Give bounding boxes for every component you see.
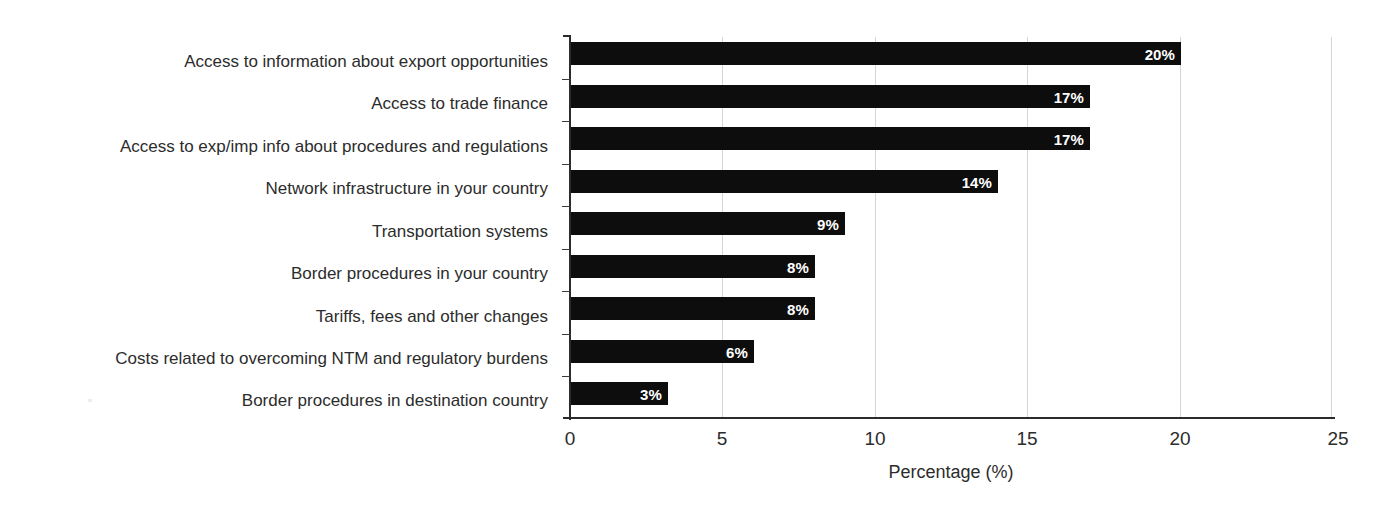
bar-row[interactable]: 17%: [570, 127, 1332, 150]
category-label: Transportation systems: [0, 223, 548, 240]
bar-value-label: 17%: [1054, 89, 1084, 104]
category-label: Access to information about export oppor…: [0, 53, 548, 70]
bar-value-label: 8%: [787, 301, 809, 316]
bar-chart-figure: 20% 17% 17% 14% 9% 8%: [0, 0, 1376, 511]
category-label: Border procedures in your country: [0, 265, 548, 282]
bar[interactable]: 14%: [570, 170, 998, 193]
bar-row[interactable]: 9%: [570, 212, 1332, 235]
bar[interactable]: 3%: [570, 382, 668, 405]
category-label: Tariffs, fees and other changes: [0, 308, 548, 325]
x-axis-title: Percentage (%): [570, 463, 1332, 481]
bar-row[interactable]: 6%: [570, 340, 1332, 363]
plot-area: 20% 17% 17% 14% 9% 8%: [570, 37, 1332, 418]
bar-row[interactable]: 17%: [570, 85, 1332, 108]
y-axis-line: [569, 35, 571, 420]
y-tick: [562, 291, 571, 292]
bar[interactable]: 17%: [570, 127, 1090, 150]
bar-value-label: 6%: [726, 344, 748, 359]
category-label: Network infrastructure in your country: [0, 180, 548, 197]
bar-value-label: 8%: [787, 259, 809, 274]
x-tick-label-list: 0 5 10 15 20 25: [0, 429, 1376, 459]
bar-value-label: 14%: [962, 174, 992, 189]
bar-value-label: 3%: [640, 386, 662, 401]
x-tick-label: 20: [1169, 429, 1190, 448]
bar[interactable]: 6%: [570, 340, 754, 363]
bar-row[interactable]: 3%: [570, 382, 1332, 405]
y-tick: [562, 164, 571, 165]
bar-row[interactable]: 8%: [570, 297, 1332, 320]
bar[interactable]: 17%: [570, 85, 1090, 108]
y-tick: [562, 121, 571, 122]
x-tick-label: 10: [864, 429, 885, 448]
x-tick-label: 15: [1016, 429, 1037, 448]
y-tick: [562, 334, 571, 335]
bar-row[interactable]: 14%: [570, 170, 1332, 193]
x-axis-line: [563, 417, 1335, 419]
bar[interactable]: 8%: [570, 255, 815, 278]
category-label: Access to exp/imp info about procedures …: [0, 138, 548, 155]
bar[interactable]: 20%: [570, 42, 1181, 65]
y-tick: [562, 249, 571, 250]
bar-value-label: 9%: [817, 216, 839, 231]
category-label: Costs related to overcoming NTM and regu…: [0, 350, 548, 367]
bar-row[interactable]: 20%: [570, 42, 1332, 65]
y-axis-top-cap: [563, 35, 571, 37]
x-tick-label: 5: [717, 429, 728, 448]
y-tick: [562, 79, 571, 80]
x-tick-label: 25: [1327, 429, 1348, 448]
scan-artifact: [88, 399, 92, 402]
bar-value-label: 17%: [1054, 131, 1084, 146]
y-tick: [562, 206, 571, 207]
category-label: Access to trade finance: [0, 95, 548, 112]
bar[interactable]: 8%: [570, 297, 815, 320]
y-tick: [562, 376, 571, 377]
x-tick-label: 0: [565, 429, 576, 448]
bar-row[interactable]: 8%: [570, 255, 1332, 278]
category-label: Border procedures in destination country: [0, 392, 548, 409]
bar-value-label: 20%: [1145, 46, 1175, 61]
bar[interactable]: 9%: [570, 212, 845, 235]
